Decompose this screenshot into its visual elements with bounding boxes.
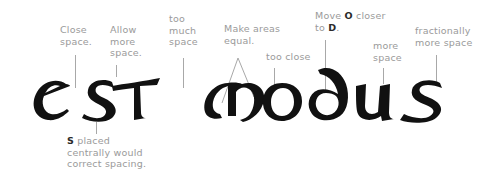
- letter-m: [204, 83, 264, 123]
- annotation-text: space.: [60, 36, 92, 48]
- letter-u: [356, 84, 394, 121]
- annotation-text: more: [373, 40, 402, 52]
- annotation-text: Close: [60, 24, 92, 36]
- annotation-text: Allow: [110, 24, 142, 36]
- annotation-text: Move: [315, 10, 345, 21]
- annotation-too-much-space: too much space: [169, 13, 198, 48]
- letter-e: [34, 81, 70, 120]
- annotation-make-areas-equal: Make areas equal.: [224, 23, 280, 46]
- annotation-line: to D.: [315, 22, 386, 34]
- annotation-allow-more-space: Allow more space.: [110, 24, 142, 59]
- annotation-text: more space: [415, 37, 473, 49]
- annotation-text: equal.: [224, 35, 280, 47]
- letter-T: [112, 78, 160, 120]
- annotation-text: Make areas: [224, 23, 280, 35]
- annotation-text: too: [169, 13, 198, 25]
- letter-s: [400, 80, 442, 122]
- annotation-line: S placed: [67, 135, 146, 147]
- annotation-text: too close: [266, 51, 311, 63]
- annotation-text: centrally would: [67, 147, 146, 159]
- annotation-text: more: [110, 36, 142, 48]
- annotation-text: placed: [74, 135, 110, 146]
- annotation-close-space: Close space.: [60, 24, 92, 47]
- annotation-text: space: [373, 52, 402, 64]
- annotation-text: to: [315, 22, 328, 33]
- annotation-text: fractionally: [415, 25, 473, 37]
- annotation-text: correct spacing.: [67, 158, 146, 170]
- annotation-line: Move O closer: [315, 10, 386, 22]
- annotation-text: much: [169, 25, 198, 37]
- letter-spacing-diagram: Close space. Allow more space. too much …: [0, 0, 501, 178]
- annotation-too-close: too close: [266, 51, 311, 63]
- annotation-fractionally-more-space: fractionally more space: [415, 25, 473, 48]
- emphasis-letter-s: S: [67, 135, 74, 146]
- letter-o: [263, 83, 302, 121]
- letter-d: [309, 68, 348, 120]
- annotation-more-space: more space: [373, 40, 402, 63]
- letter-S: [82, 80, 116, 122]
- annotation-text: .: [336, 22, 339, 33]
- annotation-s-placed-centrally: S placed centrally would correct spacing…: [67, 135, 146, 170]
- annotation-text: closer: [353, 10, 386, 21]
- calligraphic-word: [34, 68, 442, 123]
- annotation-text: space: [169, 36, 198, 48]
- annotation-move-o-closer: Move O closer to D.: [315, 10, 386, 33]
- emphasis-letter-o: O: [345, 10, 353, 21]
- annotation-text: space.: [110, 47, 142, 59]
